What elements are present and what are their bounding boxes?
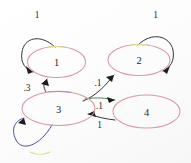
edge-4-to-3[interactable]: 1: [88, 111, 115, 130]
edge-3-to-3-highlight: [30, 152, 50, 154]
edge-label-3-to-4: .1: [96, 101, 103, 111]
node-3-top-accent: [48, 91, 71, 92]
edge-3-to-4-arrowhead: [107, 97, 115, 103]
edge-3-to-1[interactable]: .3: [23, 79, 49, 93]
node-4-label: 4: [144, 107, 150, 118]
node-1-top-accent: [49, 46, 65, 47]
edge-label-1-to-1: 1: [35, 10, 40, 20]
edge-3-to-2-arrowhead: [106, 75, 114, 82]
node-2-top-accent: [131, 44, 148, 45]
node-3-label: 3: [56, 104, 61, 115]
node-2[interactable]: 2: [108, 44, 170, 75]
edge-label-2-to-2: 1: [153, 10, 158, 20]
edge-label-3-to-2: .1: [94, 78, 101, 88]
diagram-canvas: 1 1 .3 .1 .1: [0, 0, 191, 163]
state-transition-graph: 1 1 .3 .1 .1: [0, 0, 191, 163]
edge-3-to-3[interactable]: [14, 118, 52, 154]
edge-1-to-1[interactable]: 1: [22, 10, 55, 74]
edge-3-to-2[interactable]: .1: [83, 75, 114, 101]
edge-2-to-2[interactable]: 1: [138, 10, 173, 74]
edge-label-4-to-3: 1: [97, 120, 102, 130]
node-4[interactable]: 4: [113, 95, 180, 128]
node-3[interactable]: 3: [22, 91, 95, 125]
node-1-label: 1: [54, 57, 59, 68]
node-1[interactable]: 1: [28, 46, 86, 77]
node-2-label: 2: [136, 55, 141, 66]
edge-label-3-to-1: .3: [23, 83, 30, 93]
edge-3-to-1-arrowhead: [41, 79, 49, 86]
